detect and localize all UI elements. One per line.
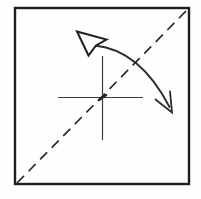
- fold-arrow-hollow-head: [77, 32, 107, 56]
- fold-arrow-open-head: [156, 92, 173, 113]
- origami-diagram-canvas: [0, 0, 201, 199]
- diagram-svg: [0, 0, 201, 199]
